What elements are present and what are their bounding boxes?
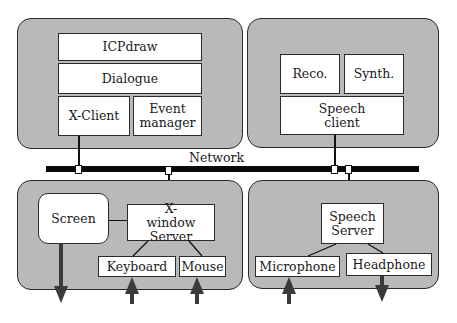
mouse-input-arrow-icon <box>190 277 204 304</box>
server-mouse-link <box>189 241 202 256</box>
microphone-input-arrow-icon <box>282 277 296 304</box>
headphone-output-arrow-icon <box>375 276 389 302</box>
keyboard-input-arrow-icon <box>125 277 139 304</box>
connectors-and-arrows <box>0 0 457 323</box>
server-keyboard-link <box>133 241 148 256</box>
server-headphone-link <box>368 244 383 253</box>
server-microphone-link <box>308 244 336 256</box>
screen-output-arrow-icon <box>54 243 68 303</box>
